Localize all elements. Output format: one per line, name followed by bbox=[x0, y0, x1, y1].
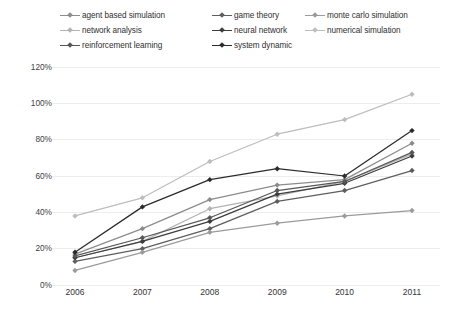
legend-label: game theory bbox=[234, 10, 279, 21]
data-point bbox=[342, 188, 347, 193]
legend-item-reinforcement-learning[interactable]: reinforcement learning bbox=[60, 38, 162, 53]
data-point bbox=[275, 166, 280, 171]
data-point bbox=[409, 168, 414, 173]
legend-label: monte carlo simulation bbox=[327, 10, 408, 21]
series-line bbox=[75, 171, 412, 262]
gridlines bbox=[52, 67, 440, 285]
legend-label: neural network bbox=[234, 25, 287, 36]
legend-swatch-icon bbox=[60, 40, 80, 51]
legend-swatch-icon bbox=[60, 25, 80, 36]
legend-swatch-icon bbox=[305, 25, 325, 36]
data-point bbox=[207, 206, 212, 211]
data-point bbox=[409, 141, 414, 146]
data-point bbox=[72, 268, 77, 273]
data-point bbox=[275, 182, 280, 187]
data-point bbox=[207, 215, 212, 220]
series-agent-based-simulation bbox=[72, 141, 414, 257]
data-point bbox=[207, 159, 212, 164]
data-point bbox=[207, 177, 212, 182]
legend-item-game-theory[interactable]: game theory bbox=[212, 8, 279, 23]
series-network-analysis bbox=[72, 152, 414, 261]
data-point bbox=[275, 132, 280, 137]
data-point bbox=[207, 197, 212, 202]
legend-swatch-icon bbox=[60, 10, 80, 21]
legend-item-numerical-simulation[interactable]: numerical simulation bbox=[305, 23, 401, 38]
data-point bbox=[275, 188, 280, 193]
x-tick-label: 2010 bbox=[320, 286, 370, 298]
x-tick-label: 2011 bbox=[387, 286, 437, 298]
data-point bbox=[275, 221, 280, 226]
legend-label: numerical simulation bbox=[327, 25, 401, 36]
series-line bbox=[75, 152, 412, 256]
data-point bbox=[140, 226, 145, 231]
series-reinforcement-learning bbox=[72, 150, 414, 259]
plot-area bbox=[0, 55, 453, 300]
data-point bbox=[207, 230, 212, 235]
legend-label: system dynamic bbox=[234, 40, 292, 51]
chart-legend: agent based simulationgame theorymonte c… bbox=[60, 8, 453, 54]
data-point bbox=[140, 195, 145, 200]
series-line bbox=[75, 94, 412, 216]
series-line bbox=[75, 131, 412, 253]
x-axis-tick-labels: 200620072008200920102011 bbox=[0, 286, 453, 302]
legend-item-monte-carlo-simulation[interactable]: monte carlo simulation bbox=[305, 8, 408, 23]
legend-row: network analysisneural networknumerical … bbox=[60, 23, 453, 38]
series-line bbox=[75, 211, 412, 271]
data-point bbox=[342, 117, 347, 122]
data-point bbox=[140, 235, 145, 240]
legend-item-neural-network[interactable]: neural network bbox=[212, 23, 287, 38]
legend-item-agent-based-simulation[interactable]: agent based simulation bbox=[60, 8, 165, 23]
legend-label: network analysis bbox=[82, 25, 142, 36]
data-point bbox=[342, 213, 347, 218]
legend-swatch-icon bbox=[212, 25, 232, 36]
x-tick-label: 2006 bbox=[50, 286, 100, 298]
figure-line-chart: agent based simulationgame theorymonte c… bbox=[0, 0, 453, 317]
series-monte-carlo-simulation bbox=[72, 208, 414, 273]
legend-row: reinforcement learningsystem dynamic bbox=[60, 38, 453, 53]
legend-item-network-analysis[interactable]: network analysis bbox=[60, 23, 142, 38]
legend-item-system-dynamic[interactable]: system dynamic bbox=[212, 38, 292, 53]
legend-swatch-icon bbox=[212, 10, 232, 21]
data-point bbox=[275, 199, 280, 204]
series-line bbox=[75, 143, 412, 254]
legend-swatch-icon bbox=[305, 10, 325, 21]
x-tick-label: 2008 bbox=[185, 286, 235, 298]
series-game-theory bbox=[72, 168, 414, 264]
series-numerical-simulation bbox=[72, 92, 414, 219]
legend-swatch-icon bbox=[212, 40, 232, 51]
legend-label: reinforcement learning bbox=[82, 40, 162, 51]
data-point bbox=[409, 92, 414, 97]
chart-canvas bbox=[0, 55, 453, 300]
x-tick-label: 2009 bbox=[252, 286, 302, 298]
data-point bbox=[140, 250, 145, 255]
legend-label: agent based simulation bbox=[82, 10, 165, 21]
data-point bbox=[72, 213, 77, 218]
x-tick-label: 2007 bbox=[117, 286, 167, 298]
legend-row: agent based simulationgame theorymonte c… bbox=[60, 8, 453, 23]
